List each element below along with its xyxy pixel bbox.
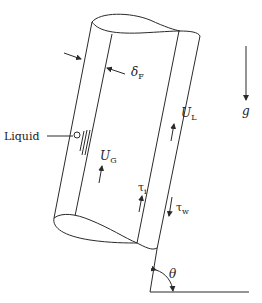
pipe-bottom-upper-curve xyxy=(54,214,137,243)
pipe-outer-right-wall xyxy=(157,36,200,249)
film-thickness-arrow-outer xyxy=(64,53,81,59)
wall-stress-label: τw xyxy=(176,201,189,216)
liquid-pointer-circle xyxy=(74,132,80,138)
interfacial-stress-arrow xyxy=(139,196,142,212)
liquid-label: Liquid xyxy=(4,130,40,143)
film-thickness-arrow-inner xyxy=(107,68,125,74)
film-inner-right-interface xyxy=(137,31,179,243)
gas-velocity-arrow xyxy=(99,166,102,183)
film-inner-left-interface xyxy=(75,34,112,216)
gas-velocity-label: UG xyxy=(100,149,117,165)
liquid-velocity-label: UL xyxy=(181,106,197,122)
wall-stress-arrow xyxy=(169,197,172,216)
film-thickness-label: δF xyxy=(131,65,144,81)
liquid-velocity-arrow xyxy=(171,124,174,141)
annular-flow-diagram: δF UL g Liquid UG τi τw θ xyxy=(0,0,262,303)
gravity-label: g xyxy=(242,104,250,118)
angle-label: θ xyxy=(169,267,177,281)
interfacial-stress-label: τi xyxy=(138,181,147,196)
pipe-outer-left-wall xyxy=(54,22,92,218)
